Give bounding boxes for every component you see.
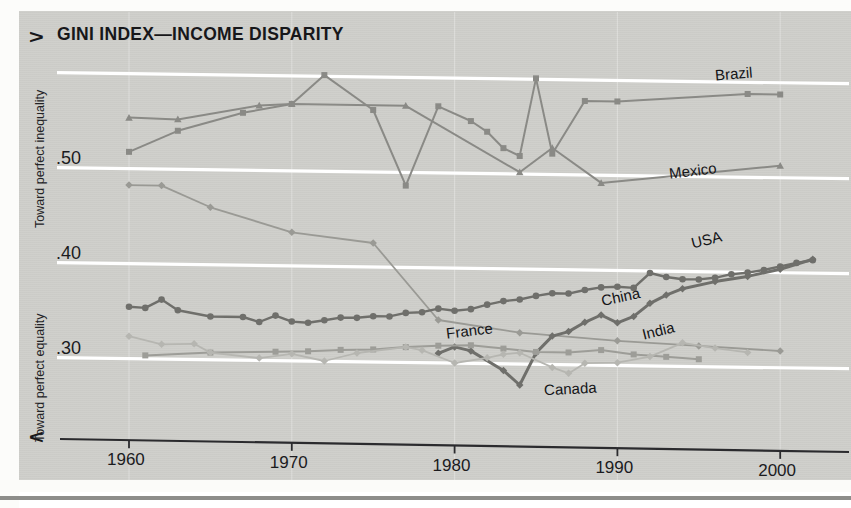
data-point-marker (468, 342, 474, 348)
data-point-marker (517, 153, 523, 159)
data-point-marker (451, 307, 458, 314)
data-point-marker (484, 129, 490, 135)
data-point-marker (549, 151, 555, 157)
x-tick-label: 2000 (758, 461, 796, 481)
data-point-marker (565, 290, 572, 297)
data-point-marker (321, 72, 327, 78)
data-point-marker (582, 287, 589, 294)
data-point-marker (451, 359, 459, 367)
data-point-marker (125, 181, 133, 189)
data-point-marker (142, 352, 148, 358)
y-tick-label: .40 (56, 243, 81, 264)
data-point-marker (175, 307, 182, 314)
data-point-marker (240, 314, 247, 321)
data-point-marker (370, 107, 376, 113)
data-point-marker (207, 204, 215, 212)
data-point-marker (711, 344, 719, 352)
data-point-marker (272, 312, 279, 319)
data-point-marker (190, 340, 198, 348)
data-point-marker (321, 317, 328, 324)
data-point-marker (305, 348, 311, 354)
data-point-marker (614, 337, 622, 345)
data-point-marker (663, 354, 669, 360)
data-point-marker (288, 229, 296, 237)
data-point-marker (598, 347, 604, 353)
data-point-marker (158, 296, 165, 303)
data-point-marker (696, 276, 703, 283)
data-point-marker (468, 118, 474, 124)
data-point-marker (582, 98, 588, 104)
x-tick-label: 1980 (433, 456, 471, 476)
data-point-marker (468, 306, 475, 313)
data-point-marker (533, 75, 539, 81)
data-point-marker (403, 183, 409, 189)
data-point-marker (745, 91, 751, 97)
x-tick-label: 1970 (270, 453, 308, 473)
data-point-marker (126, 149, 132, 155)
data-point-marker (435, 103, 441, 109)
x-tick-label: 1960 (107, 450, 145, 470)
data-point-marker (549, 290, 556, 297)
data-point-marker (435, 343, 441, 349)
data-point-marker (777, 91, 783, 97)
series-label-canada: Canada (544, 379, 597, 399)
data-point-marker (776, 347, 784, 355)
data-point-marker (256, 319, 263, 326)
data-point-marker (598, 284, 605, 291)
y-tick-label: .50 (56, 148, 81, 169)
data-point-marker (240, 110, 246, 116)
data-point-marker (419, 309, 426, 316)
data-point-marker (158, 182, 166, 190)
data-point-marker (566, 349, 572, 355)
data-point-marker (500, 298, 507, 305)
data-point-marker (614, 98, 620, 104)
gini-index-figure: GINI INDEX—INCOME DISPARITY ∧ Toward per… (0, 0, 851, 508)
data-point-marker (500, 145, 506, 151)
y-axis-note-inequality: Toward perfect inequality (33, 90, 47, 228)
data-point-marker (728, 271, 735, 278)
data-point-marker (402, 310, 409, 317)
data-point-marker (370, 313, 377, 320)
data-point-marker (500, 351, 508, 359)
data-point-marker (289, 318, 296, 325)
data-point-marker (435, 305, 442, 312)
x-tick-label: 1990 (595, 458, 633, 478)
data-point-marker (207, 313, 214, 320)
data-point-marker (126, 303, 133, 310)
data-point-marker (337, 314, 344, 321)
data-point-marker (533, 349, 539, 355)
data-point-marker (647, 270, 654, 277)
page-title: GINI INDEX—INCOME DISPARITY (57, 24, 344, 45)
data-point-marker (679, 276, 686, 283)
data-point-marker (533, 293, 540, 300)
data-point-marker (484, 301, 491, 308)
y-tick-label: .30 (56, 338, 81, 359)
data-point-marker (418, 346, 426, 354)
data-point-marker (354, 315, 361, 322)
gridline (57, 168, 849, 179)
data-point-marker (273, 349, 279, 355)
data-point-marker (338, 347, 344, 353)
inequality-arrow-icon: ∧ (24, 29, 50, 45)
data-point-marker (142, 305, 149, 312)
data-point-marker (175, 128, 181, 134)
y-axis-note-equality: Toward perfect equality (33, 313, 47, 442)
data-point-marker (321, 357, 329, 365)
data-point-marker (305, 319, 312, 326)
data-point-marker (663, 274, 670, 281)
data-point-marker (158, 341, 166, 349)
data-point-marker (516, 296, 523, 303)
data-point-marker (516, 329, 524, 337)
data-point-marker (386, 313, 393, 320)
data-point-marker (646, 353, 654, 361)
data-point-marker (125, 332, 133, 340)
data-point-marker (631, 351, 637, 357)
data-point-marker (696, 356, 702, 362)
